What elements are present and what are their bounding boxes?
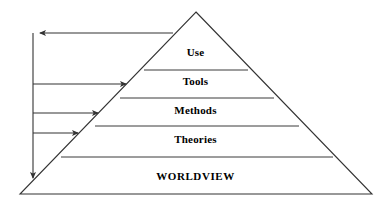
pyramid-level-worldview: WORLDVIEW (0, 171, 391, 182)
pyramid-level-theories: Theories (0, 134, 391, 145)
pyramid-level-methods: Methods (0, 105, 391, 116)
pyramid-diagram: Use Tools Methods Theories WORLDVIEW (0, 0, 391, 203)
pyramid-level-use: Use (0, 47, 391, 58)
pyramid-outline (20, 12, 372, 194)
pyramid-level-tools: Tools (0, 76, 391, 87)
